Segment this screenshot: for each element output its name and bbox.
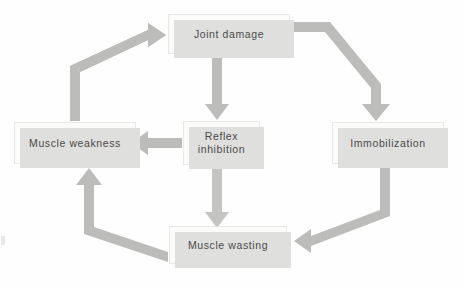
- node-joint-damage-label: Joint damage: [190, 28, 268, 41]
- node-joint-damage[interactable]: Joint damage: [168, 14, 290, 54]
- node-reflex-inhibition-line1: Reflex: [205, 130, 238, 142]
- arrow-muscle-wasting-to-muscle-weakness: [76, 168, 168, 262]
- node-immobilization[interactable]: Immobilization: [332, 122, 444, 164]
- node-reflex-inhibition-line2: inhibition: [198, 143, 245, 155]
- page-edge-mark: [1, 236, 5, 245]
- arrow-immobilization-to-muscle-wasting: [294, 166, 390, 253]
- arrow-reflex-inhibition-to-muscle-wasting: [205, 166, 229, 228]
- flowchart-diagram: Joint damage Muscle weakness Reflex inhi…: [0, 0, 465, 287]
- node-reflex-inhibition-label: Reflex inhibition: [194, 130, 249, 156]
- arrow-muscle-weakness-to-joint-damage: [60, 23, 166, 121]
- node-muscle-weakness[interactable]: Muscle weakness: [14, 122, 136, 164]
- node-muscle-wasting[interactable]: Muscle wasting: [169, 226, 287, 264]
- node-muscle-wasting-label: Muscle wasting: [184, 239, 272, 252]
- node-immobilization-label: Immobilization: [346, 137, 430, 150]
- arrow-joint-damage-to-reflex-inhibition: [205, 56, 229, 120]
- node-reflex-inhibition[interactable]: Reflex inhibition: [183, 121, 260, 165]
- node-muscle-weakness-label: Muscle weakness: [25, 137, 125, 150]
- arrow-joint-damage-to-immobilization: [292, 22, 390, 121]
